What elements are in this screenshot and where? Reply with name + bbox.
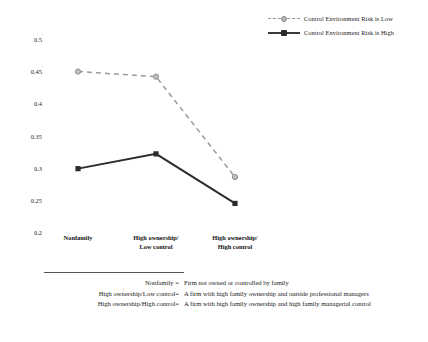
footnote-term: High ownership/High control= bbox=[44, 299, 184, 309]
footnote-definition: Firm not owned or controlled by family bbox=[184, 278, 289, 288]
data-point-marker bbox=[232, 201, 237, 206]
footnote-definition: A firm with high family ownership and ou… bbox=[184, 289, 369, 299]
plot-area: 0.50.450.40.350.30.250.2 NonfamilyHigh o… bbox=[0, 0, 300, 250]
footnote-block: Nonfamily =Firm not owned or controlled … bbox=[44, 272, 424, 310]
footnote-row: Nonfamily =Firm not owned or controlled … bbox=[44, 278, 424, 288]
data-point-marker bbox=[153, 151, 158, 156]
footnote-definition: A firm with high family ownership and hi… bbox=[184, 299, 371, 309]
data-point-marker bbox=[75, 69, 80, 74]
footnote-row: High ownership/High control=A firm with … bbox=[44, 299, 424, 309]
legend-label-risk-high: Control Environment Risk is High bbox=[304, 29, 394, 37]
footnote-row: High ownership/Low control=A firm with h… bbox=[44, 289, 424, 299]
footnote-term: High ownership/Low control= bbox=[44, 289, 184, 299]
footnote-term: Nonfamily = bbox=[44, 278, 184, 288]
series-line bbox=[78, 154, 235, 204]
chart-figure: Control Environment Risk is Low Control … bbox=[0, 0, 428, 342]
data-point-marker bbox=[153, 74, 158, 79]
data-point-marker bbox=[75, 166, 80, 171]
legend-label-risk-low: Control Environment Risk is Low bbox=[304, 15, 393, 23]
data-point-marker bbox=[232, 174, 237, 179]
series-line bbox=[78, 72, 235, 178]
data-series-layer bbox=[0, 0, 300, 250]
footnote-divider bbox=[44, 272, 184, 273]
